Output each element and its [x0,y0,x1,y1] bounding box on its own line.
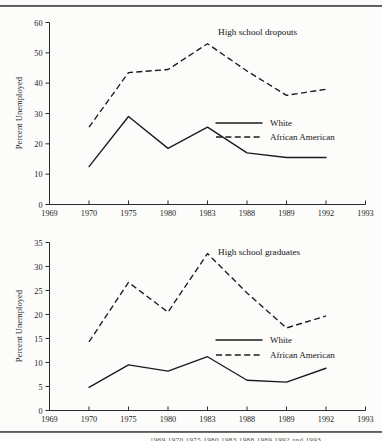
y-tick-label: 35 [34,239,42,248]
series-line-african-american [89,254,326,342]
chart-high-school-graduates: 05101520253035 1969197019751980198319881… [0,228,382,428]
legend-label-african-american: African American [270,350,335,360]
legend-label-african-american: African American [270,132,335,142]
y-tick-label: 60 [34,19,42,28]
x-tick-label: 1992 [318,415,334,424]
y-axis-title: Percent Unemployed [14,289,24,362]
chart-high-school-dropouts: 0102030405060 19691970197519801983198819… [0,8,382,220]
x-tick-label: 1989 [278,209,294,218]
y-tick-label: 40 [34,79,42,88]
x-tick-label: 1975 [120,415,136,424]
x-tick-label: 1988 [239,415,255,424]
y-axis-title: Percent Unemployed [14,76,24,149]
series-line-white [89,357,326,388]
x-tick-label: 1989 [278,415,294,424]
series-group [89,44,326,167]
y-tick-group: 05101520253035 [34,239,49,416]
x-tick-label: 1993 [357,415,373,424]
x-tick-label: 1983 [199,209,215,218]
chart-bottom-svg: 05101520253035 1969197019751980198319881… [0,228,382,428]
x-tick-group: 196919701975198019831988198919921993 [41,201,373,218]
y-tick-label: 30 [34,263,42,272]
page-rule-bottom [0,431,382,433]
y-tick-label: 20 [34,140,42,149]
x-tick-label: 1980 [160,209,176,218]
y-tick-label: 5 [38,383,42,392]
panel-title: High school dropouts [218,27,298,37]
legend: White African American [216,118,335,142]
x-tick-label: 1969 [41,415,57,424]
chart-top-axes [50,23,366,205]
y-tick-label: 30 [34,110,42,119]
x-tick-label: 1975 [120,209,136,218]
x-tick-label: 1983 [199,415,215,424]
x-tick-label: 1993 [357,209,373,218]
footer-partial-text: 1969 1970 1975 1980 1983 1988 1989 1992 … [150,436,382,441]
y-tick-group: 0102030405060 [34,19,49,210]
x-tick-label: 1988 [239,209,255,218]
x-tick-label: 1970 [81,415,97,424]
x-tick-group: 196919701975198019831988198919921993 [41,407,373,424]
legend-label-white: White [270,335,292,345]
y-tick-label: 50 [34,49,42,58]
page-rule-top [0,5,382,7]
series-group [89,254,326,388]
y-tick-label: 25 [34,287,42,296]
y-tick-label: 10 [34,359,42,368]
legend-label-white: White [270,118,292,128]
x-tick-label: 1970 [81,209,97,218]
chart-top-svg: 0102030405060 19691970197519801983198819… [0,8,382,220]
y-tick-label: 20 [34,311,42,320]
panel-title: High school graduates [218,247,301,257]
series-line-african-american [89,44,326,127]
legend: White African American [216,335,335,360]
x-tick-label: 1969 [41,209,57,218]
y-tick-label: 15 [34,335,42,344]
x-tick-label: 1980 [160,415,176,424]
chart-bottom-axes [50,243,366,411]
x-tick-label: 1992 [318,209,334,218]
scanned-page: 0102030405060 19691970197519801983198819… [0,0,382,441]
y-tick-label: 10 [34,170,42,179]
